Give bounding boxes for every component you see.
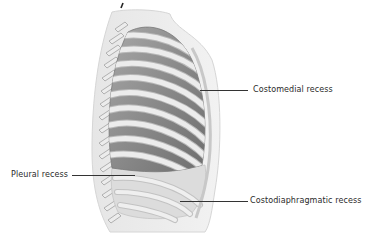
costodiaphragmatic-leader-line (180, 201, 248, 202)
costomedial-recess-label: Costomedial recess (253, 85, 333, 94)
pleural-leader-line (72, 175, 135, 176)
top-mark (121, 3, 123, 8)
anatomy-figure: Costomedial recess Pleural recess Costod… (0, 0, 370, 234)
pleural-recess-label: Pleural recess (11, 170, 68, 179)
costodiaphragmatic-recess-label: Costodiaphragmatic recess (250, 196, 362, 205)
costomedial-leader-line (200, 90, 248, 91)
